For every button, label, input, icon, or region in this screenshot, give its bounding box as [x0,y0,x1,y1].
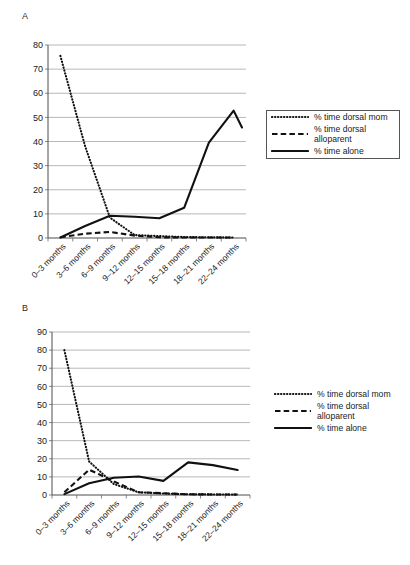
legend-swatch-dotted [271,112,309,122]
y-tick-label: 30 [33,161,43,171]
legend-label: % time alone [314,146,364,156]
y-tick-label: 50 [33,113,43,123]
y-tick-label: 30 [37,436,47,446]
y-tick-label: 60 [33,88,43,98]
legend-marker-solid [271,146,309,156]
y-gridlines: 0102030405060708090 [37,327,250,500]
panel-b: B 01020304050607080900–3 months3–6 month… [0,290,410,565]
legend-swatch-dashed [274,406,312,416]
series-group [60,56,242,238]
y-tick-label: 80 [37,345,47,355]
y-tick-label: 90 [37,327,47,337]
axes [48,45,246,242]
legend-item: % time dorsal alloparent [267,123,399,145]
y-tick-label: 10 [37,472,47,482]
legend-label: % time dorsal alloparent [317,401,369,421]
y-tick-label: 60 [37,382,47,392]
panel-a: A 010203040506070800–3 months3–6 months6… [0,0,410,290]
legend-marker-dashed [271,129,309,139]
axes [52,332,250,499]
legend-label: % time dorsal alloparent [314,124,366,144]
y-tick-label: 70 [33,64,43,74]
legend-item: % time alone [270,422,404,434]
y-tick-label: 0 [38,233,43,243]
legend-swatch-solid [271,146,309,156]
legend-item: % time alone [267,145,399,157]
y-tick-label: 0 [42,490,47,500]
legend-marker-dotted [274,389,312,399]
x-tick-labels: 0–3 months3–6 months6–9 months9–12 month… [33,498,245,543]
panel-a-legend: % time dorsal mom% time dorsal alloparen… [266,110,400,159]
legend-item: % time dorsal mom [270,388,404,400]
series-line-solid [64,462,237,494]
x-tick-labels: 0–3 months3–6 months6–9 months9–12 month… [29,241,241,286]
legend-marker-solid [274,423,312,433]
y-tick-label: 20 [37,454,47,464]
legend-label: % time alone [317,423,367,433]
y-tick-label: 70 [37,363,47,373]
y-tick-label: 40 [37,418,47,428]
y-tick-label: 80 [33,40,43,50]
legend-label: % time dorsal mom [314,112,388,122]
y-tick-label: 40 [33,137,43,147]
legend-item: % time dorsal alloparent [270,400,404,422]
y-tick-label: 50 [37,400,47,410]
series-line-solid [60,111,242,238]
legend-label: % time dorsal mom [317,389,391,399]
y-tick-label: 20 [33,185,43,195]
legend-swatch-dotted [274,389,312,399]
legend-swatch-solid [274,423,312,433]
legend-marker-dashed [274,406,312,416]
legend-item: % time dorsal mom [267,111,399,123]
legend-swatch-dashed [271,129,309,139]
legend-marker-dotted [271,112,309,122]
y-tick-label: 10 [33,209,43,219]
panel-b-legend: % time dorsal mom% time dorsal alloparen… [270,388,404,435]
series-line-dashed [60,232,233,238]
